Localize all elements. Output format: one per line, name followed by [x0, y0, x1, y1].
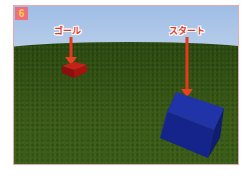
start-label: スタート [169, 24, 205, 37]
game-viewport: 6 ゴール スタート [13, 5, 239, 165]
start-block [156, 86, 228, 162]
goal-label: ゴール [54, 24, 81, 37]
goal-block [59, 61, 89, 79]
step-number-badge: 6 [15, 7, 28, 20]
